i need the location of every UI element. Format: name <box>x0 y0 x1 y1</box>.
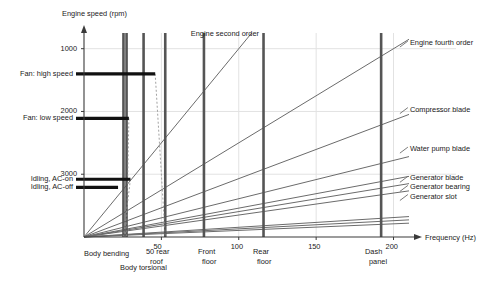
order-label-water-pump-blade: Water pump blade <box>410 145 470 152</box>
order-label-generator-slot: Generator slot <box>410 193 457 200</box>
mode-label-rear-floor-line2: floor <box>257 258 271 265</box>
speed-label-idling-ac-off: Idling, AC-off <box>0 183 73 190</box>
mode-label-rear-floor: Rear <box>253 248 269 255</box>
y-tick-label-3000: 1000 <box>0 45 77 52</box>
order-label-generator-blade: Generator blade <box>410 174 463 181</box>
order-line-engine-second-order <box>84 33 252 237</box>
campbell-diagram: Engine speed (rpm) Frequency (Hz) 300020… <box>0 0 501 283</box>
leader-fan-high-to-50-rear-roof <box>155 74 165 237</box>
x-tick-label-150: 150 <box>308 243 320 250</box>
mode-label-body-bending: Body bending <box>84 250 129 257</box>
order-label-engine-second-order: Engine second order <box>191 30 259 37</box>
order-label-compressor-blade: Compressor blade <box>410 106 470 113</box>
x-axis-arrow <box>414 234 422 240</box>
speed-label-fan-high-speed: Fan: high speed <box>0 70 73 77</box>
leader-water-pump-blade <box>400 147 408 153</box>
leader-generator-bearing <box>400 185 408 191</box>
order-line-generator-blade <box>84 176 409 237</box>
mode-label-dash-panel-line2: panel <box>369 258 387 265</box>
order-line-generator-bearing <box>84 184 409 237</box>
leader-generator-slot <box>400 195 408 201</box>
mode-label-front-floor-line2: floor <box>202 258 216 265</box>
y-axis-arrow <box>81 25 87 33</box>
x-tick-label-200: 200 <box>386 243 398 250</box>
order-lines <box>84 33 409 237</box>
leader-compressor-blade <box>400 108 408 114</box>
order-label-generator-bearing: Generator bearing <box>410 183 470 190</box>
x-axis-title: Frequency (Hz) <box>425 234 476 241</box>
order-line-compressor-blade <box>84 114 409 237</box>
mode-label-dash-panel: Dash <box>365 248 382 255</box>
order-label-engine-fourth-order: Engine fourth order <box>410 39 473 46</box>
mode-label-front-floor: Front <box>198 248 215 255</box>
speed-label-fan-low-speed: Fan: low speed <box>0 114 73 121</box>
order-line-engine-fourth-order <box>84 39 409 237</box>
x-tick-label-100: 100 <box>231 243 243 250</box>
y-axis-title: Engine speed (rpm) <box>62 10 127 17</box>
mode-label-50-rear-roof: 50 rear <box>146 248 169 255</box>
mode-label-50-rear-roof-line2: roof <box>150 258 163 265</box>
